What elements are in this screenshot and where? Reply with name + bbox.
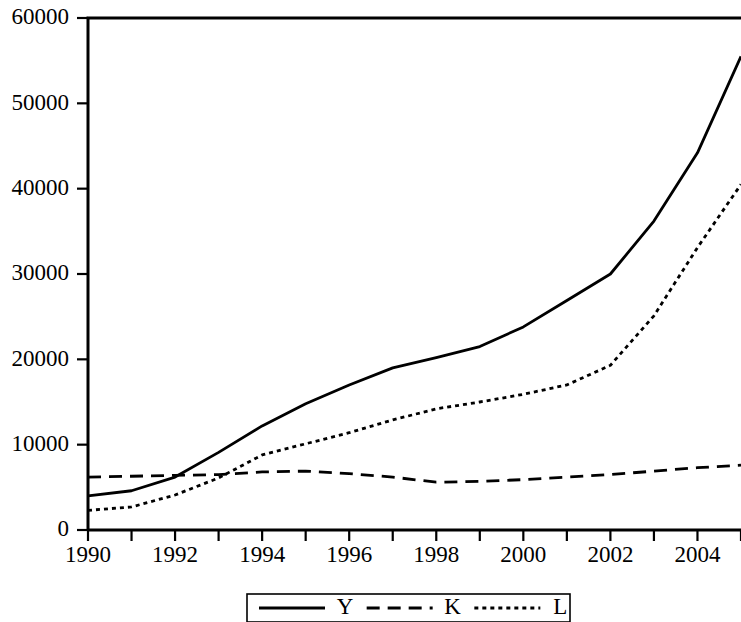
x-axis-ticks: 19901992199419961998200020022004 <box>65 530 741 567</box>
chart-legend: YKL <box>247 594 570 622</box>
x-tick-label: 2002 <box>587 542 633 567</box>
line-chart: 0100002000030000400005000060000 19901992… <box>0 0 741 622</box>
legend-label-y: Y <box>337 594 354 619</box>
y-tick-label: 20000 <box>12 346 70 371</box>
y-tick-label: 60000 <box>12 4 70 29</box>
legend-label-k: K <box>444 594 461 619</box>
y-tick-label: 30000 <box>12 260 70 285</box>
x-tick-label: 2000 <box>500 542 546 567</box>
y-tick-label: 50000 <box>12 90 70 115</box>
y-tick-label: 10000 <box>12 431 70 456</box>
x-tick-label: 1992 <box>152 542 198 567</box>
y-axis-ticks: 0100002000030000400005000060000 <box>12 4 89 541</box>
plot-area-background <box>88 18 741 530</box>
x-tick-label: 1996 <box>326 542 372 567</box>
chart-container: 0100002000030000400005000060000 19901992… <box>0 0 741 622</box>
x-tick-label: 1990 <box>65 542 111 567</box>
x-tick-label: 2004 <box>674 542 721 567</box>
x-tick-label: 1998 <box>413 542 459 567</box>
x-tick-label: 1994 <box>239 542 286 567</box>
legend-label-l: L <box>553 594 567 619</box>
y-tick-label: 40000 <box>12 175 70 200</box>
y-tick-label: 0 <box>58 516 70 541</box>
